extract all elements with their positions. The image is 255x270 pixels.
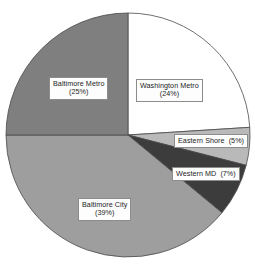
slice-label-value: (7%) [220, 169, 235, 178]
slice-label-name: Western MD [176, 169, 216, 178]
slice-label-washington-metro: Washington Metro (24%) [136, 79, 203, 102]
slice-label-value: (24%) [140, 90, 199, 99]
slice-label-value: (39%) [82, 209, 127, 218]
pie-chart: Washington Metro (24%) Eastern Shore (5%… [0, 0, 255, 270]
slice-label-baltimore-metro: Baltimore Metro (25%) [49, 77, 108, 100]
pie-slice-washington-metro [128, 13, 250, 135]
slice-label-baltimore-city: Baltimore City (39%) [78, 198, 131, 221]
pie-slice-baltimore-metro [6, 13, 128, 135]
slice-label-eastern-shore: Eastern Shore (5%) [174, 134, 248, 148]
slice-label-value: (25%) [53, 88, 104, 97]
slice-label-name: Eastern Shore [178, 136, 225, 145]
slice-label-western-md: Western MD (7%) [172, 167, 240, 181]
slice-label-value: (5%) [229, 136, 244, 145]
